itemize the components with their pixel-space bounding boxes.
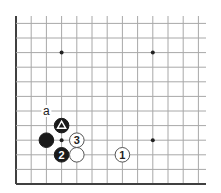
stone-move-number: 2 xyxy=(59,149,65,161)
black-stone-2: 2 xyxy=(54,148,69,163)
annotations: a xyxy=(41,104,51,118)
black-stone xyxy=(39,133,54,148)
hoshi-point xyxy=(151,138,155,142)
go-board: 231 a xyxy=(0,0,221,193)
stone-move-number: 1 xyxy=(119,149,125,161)
black-stone-triangle-marked xyxy=(54,118,69,133)
hoshi-point xyxy=(60,51,64,55)
hoshi-point xyxy=(151,51,155,55)
hoshi-point xyxy=(60,138,64,142)
grid-lines xyxy=(16,16,206,184)
stone-move-number: 3 xyxy=(74,134,80,146)
white-stone-3: 3 xyxy=(70,133,85,148)
white-stone xyxy=(70,148,85,163)
point-label-a: a xyxy=(43,104,50,118)
white-stone-1: 1 xyxy=(115,148,130,163)
